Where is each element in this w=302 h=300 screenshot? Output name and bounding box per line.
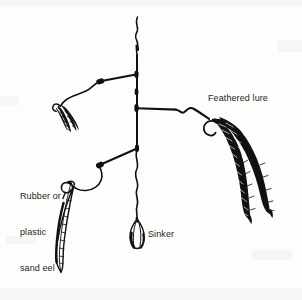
sand-eel-hook-barb xyxy=(63,193,66,199)
lower-dropper-curve xyxy=(73,166,102,191)
right-dropper-line xyxy=(137,108,176,109)
sinker-eye xyxy=(137,218,138,222)
large-feathered-lure xyxy=(212,117,271,220)
main-line-lower-wave xyxy=(135,150,137,219)
large-lure-hook xyxy=(204,121,216,136)
right-dropper-line-2 xyxy=(194,109,209,119)
large-lure-tips xyxy=(247,209,273,224)
label-sand-eel-line-2: plastic xyxy=(20,226,61,238)
lower-dropper-line xyxy=(103,149,137,164)
sinker-inner-line-1 xyxy=(133,222,136,247)
upper-dropper-line xyxy=(104,75,136,81)
label-sand-eel-line-1: Rubber or xyxy=(20,190,61,202)
right-dropper-knot xyxy=(176,108,194,113)
upper-dropper-curve xyxy=(61,82,100,106)
main-line-knot-upper xyxy=(137,46,138,50)
sinker-inner-line-2 xyxy=(139,223,141,246)
sand-eel-hook-eye xyxy=(69,182,71,183)
label-sand-eel: Rubber or plastic sand eel xyxy=(20,166,61,286)
label-feathered-lure: Feathered lure xyxy=(208,92,268,104)
label-sinker: Sinker xyxy=(148,228,174,240)
label-sand-eel-line-3: sand eel xyxy=(20,262,61,274)
